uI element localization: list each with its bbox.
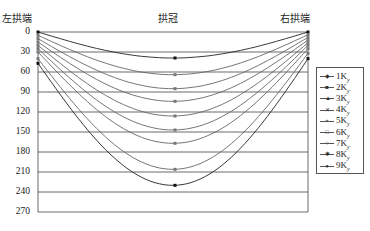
data-marker (307, 31, 310, 34)
legend-marker-icon: ○ (325, 141, 329, 145)
data-marker (307, 57, 310, 60)
data-marker (307, 52, 310, 55)
legend-marker-icon: ▲ (325, 96, 329, 100)
legend-label: 4Ky (336, 104, 350, 116)
data-marker (307, 41, 310, 44)
series-line-5 (38, 43, 308, 116)
series-line-1 (38, 32, 308, 58)
legend-item: ✱8Ky (320, 149, 350, 160)
data-marker (307, 39, 310, 42)
legend-marker-icon: ✱ (325, 152, 329, 156)
legend-item: ▲3Ky (320, 93, 350, 104)
legend-marker-icon: □ (325, 130, 329, 134)
data-marker (174, 57, 177, 60)
legend-marker-icon: ◆ (325, 74, 329, 78)
data-marker (37, 57, 40, 60)
legend-line-icon: ✱ (320, 154, 334, 155)
legend-item: ✕4Ky (320, 105, 350, 116)
data-marker (174, 100, 177, 103)
data-marker (174, 168, 177, 171)
data-marker (37, 44, 40, 47)
series-line-7 (38, 49, 308, 144)
legend-label: 1Ky (336, 71, 350, 83)
data-marker (307, 33, 310, 36)
legend-label: 6Ky (336, 127, 350, 139)
legend-line-icon: ■ (320, 87, 334, 88)
legend-line-icon: ○ (320, 143, 334, 144)
legend-item: □6Ky (320, 127, 350, 138)
legend-item: +5Ky (320, 116, 350, 127)
legend: ◆1Ky■2Ky▲3Ky✕4Ky+5Ky□6Ky○7Ky✱8Ky●9Ky (316, 67, 364, 174)
data-marker (174, 87, 177, 90)
legend-item: ◆1Ky (320, 71, 350, 82)
data-marker (307, 47, 310, 50)
legend-label: 2Ky (336, 82, 350, 94)
data-marker (307, 36, 310, 39)
data-marker (174, 184, 177, 187)
data-marker (37, 47, 40, 50)
legend-line-icon: ✕ (320, 110, 334, 111)
legend-line-icon: ◆ (320, 76, 334, 77)
legend-line-icon: □ (320, 132, 334, 133)
legend-label: 9Ky (336, 160, 350, 172)
plot-area (0, 0, 370, 231)
data-marker (37, 34, 40, 37)
data-marker (37, 41, 40, 44)
legend-label: 8Ky (336, 149, 350, 161)
data-marker (174, 115, 177, 118)
legend-label: 7Ky (336, 138, 350, 150)
data-marker (37, 37, 40, 40)
legend-marker-icon: ■ (325, 85, 329, 89)
legend-marker-icon: + (325, 119, 329, 123)
legend-item: ■2Ky (320, 82, 350, 93)
data-marker (37, 31, 40, 34)
legend-marker-icon: ● (325, 164, 329, 168)
data-marker (307, 44, 310, 47)
data-marker (37, 62, 40, 65)
legend-line-icon: ● (320, 166, 334, 167)
data-marker (174, 73, 177, 76)
legend-marker-icon: ✕ (325, 108, 329, 112)
legend-label: 3Ky (336, 93, 350, 105)
series-line-3 (38, 37, 308, 88)
data-marker (37, 51, 40, 54)
data-marker (174, 129, 177, 132)
data-marker (174, 142, 177, 145)
legend-line-icon: ▲ (320, 98, 334, 99)
legend-line-icon: + (320, 121, 334, 122)
legend-label: 5Ky (336, 115, 350, 127)
legend-item: ●9Ky (320, 161, 350, 172)
legend-item: ○7Ky (320, 138, 350, 149)
